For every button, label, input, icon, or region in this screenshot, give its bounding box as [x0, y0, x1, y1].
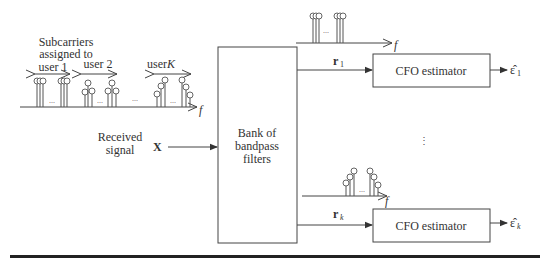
svg-text:...: ... — [97, 96, 103, 105]
cfo-estimator-k-label: CFO estimator — [396, 219, 467, 233]
epsilon1-subscript: 1 — [517, 69, 521, 78]
branch1-frequency-label: f — [394, 38, 399, 52]
svg-text:...: ... — [323, 26, 329, 35]
svg-text:...: ... — [170, 96, 176, 105]
branch1-spectrum: f ... — [296, 13, 399, 52]
subcarrier-annotation: Subcarriers assigned to user 1 user 2 us… — [39, 35, 177, 74]
r1-subscript: 1 — [340, 60, 344, 69]
cfo-estimator-1-label: CFO estimator — [396, 64, 467, 78]
user2-label: user 2 — [84, 57, 113, 71]
epsilonk-label: ε̂ — [510, 216, 517, 230]
r1-label: r — [333, 54, 339, 68]
frequency-axis-label: f — [199, 103, 204, 117]
branchk-spectrum: f ... — [302, 168, 390, 208]
svg-text:...: ... — [49, 96, 55, 105]
filter-bank-block: Bank of bandpass filters — [218, 47, 297, 243]
epsilon1-label: ε̂ — [510, 63, 517, 77]
userK-label-prefix: user — [147, 57, 167, 71]
branches-vertical-ellipsis: ⋮ — [419, 135, 429, 146]
userK-subcarriers: ... — [154, 77, 193, 107]
filter-bank-label-line1: Bank of — [238, 126, 276, 140]
userK-label-var: K — [166, 57, 176, 71]
branch-1: f ... r 1 CFO estimator ε̂ 1 — [296, 13, 521, 87]
epsilonk-subscript: k — [517, 222, 521, 231]
received-signal-input: Received signal X — [98, 130, 217, 157]
combined-spectrum: f ... ... ... ... — [20, 77, 204, 117]
user1-label: user 1 — [39, 60, 68, 74]
received-label-line2: signal — [106, 143, 135, 157]
filter-bank-label-line2: bandpass — [235, 139, 279, 153]
user1-subcarriers: ... — [34, 78, 70, 107]
rk-subscript: k — [340, 213, 344, 222]
received-label-line1: Received — [98, 130, 143, 144]
branchk-frequency-label: f — [385, 194, 390, 208]
user2-subcarriers: ... — [82, 80, 119, 107]
diagram-canvas: Subcarriers assigned to user 1 user 2 us… — [0, 0, 548, 261]
bottom-rule — [10, 255, 540, 258]
input-symbol-X: X — [153, 140, 162, 154]
svg-text:...: ... — [359, 185, 365, 194]
between-users-ellipsis: ... — [132, 94, 138, 103]
rk-label: r — [333, 207, 339, 221]
branch-k: f ... r k CFO estimator ε̂ k — [297, 168, 521, 242]
filter-bank-label-line3: filters — [243, 152, 271, 166]
